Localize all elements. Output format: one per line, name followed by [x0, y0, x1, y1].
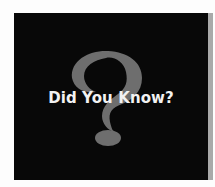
- did-you-know-title: Did You Know?: [14, 88, 208, 108]
- did-you-know-graphic: Did You Know?: [0, 0, 215, 187]
- gray-side-strip: [208, 13, 213, 180]
